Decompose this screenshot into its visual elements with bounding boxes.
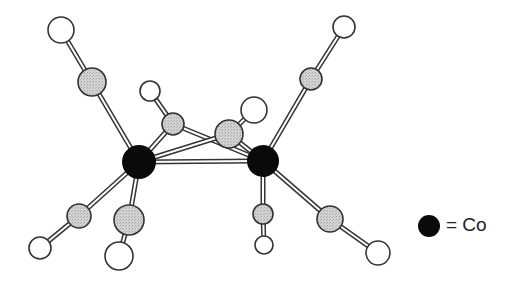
- atoms: [29, 16, 390, 270]
- atom-terminal-icon: [140, 81, 160, 101]
- atom-carbon-icon: [215, 120, 243, 148]
- atom-terminal-icon: [29, 237, 51, 259]
- atom-carbon-icon: [300, 68, 322, 90]
- legend-cobalt-icon: [418, 215, 440, 237]
- atom-carbon-icon: [253, 204, 273, 224]
- atom-terminal-icon: [48, 17, 74, 43]
- atom-terminal-icon: [333, 16, 355, 38]
- legend-label: = Co: [446, 214, 487, 236]
- atom-carbon-icon: [78, 68, 106, 96]
- atom-terminal-icon: [241, 97, 267, 123]
- atom-carbon-icon: [317, 206, 343, 232]
- atom-carbon-icon: [162, 113, 184, 135]
- atom-cobalt-icon: [247, 145, 279, 177]
- atom-terminal-icon: [366, 241, 390, 265]
- atom-carbon-icon: [114, 205, 144, 235]
- atom-terminal-icon: [105, 242, 133, 270]
- bond-Co1-Co2: [139, 161, 263, 162]
- atom-carbon-icon: [67, 204, 91, 228]
- atom-cobalt-icon: [122, 145, 156, 179]
- molecule-diagram: [0, 0, 523, 291]
- atom-terminal-icon: [255, 236, 273, 254]
